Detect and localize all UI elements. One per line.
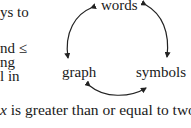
left-line-1: ys to: [0, 5, 29, 20]
node-graph: graph: [62, 65, 96, 80]
node-words: words: [101, 0, 138, 13]
caption-line: x is greater than or equal to two.: [0, 101, 191, 119]
left-line-4: l in: [0, 69, 20, 84]
caption-variable: x: [0, 101, 7, 118]
node-symbols: symbols: [136, 65, 186, 80]
caption-text: is greater than or equal to two.: [7, 101, 191, 118]
